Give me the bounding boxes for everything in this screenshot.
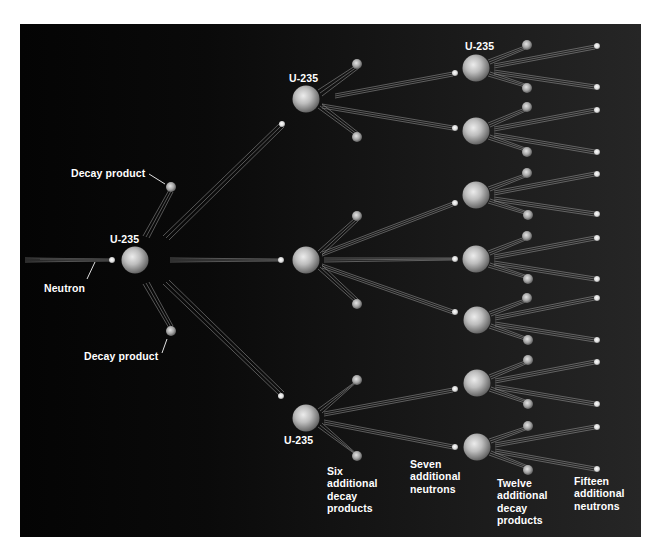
label-line: Six bbox=[327, 465, 378, 477]
u235-nuclei bbox=[122, 55, 491, 461]
nucleus-gen3-2 bbox=[463, 118, 490, 145]
label-line: additional bbox=[327, 477, 378, 489]
leader-neutron bbox=[87, 262, 95, 279]
label-line: Seven bbox=[410, 458, 461, 470]
label-line: decay bbox=[497, 502, 548, 514]
label-twelve-additional-decay-products: Twelve additional decay products bbox=[497, 477, 548, 526]
label-six-additional-decay-products: Six additional decay products bbox=[327, 465, 378, 514]
label-line: decay bbox=[327, 490, 378, 502]
label-line: neutrons bbox=[574, 500, 625, 512]
label-u235-gen2-bottom: U-235 bbox=[284, 434, 313, 446]
label-line: additional bbox=[410, 470, 461, 482]
label-line: Twelve bbox=[497, 477, 548, 489]
label-line: products bbox=[497, 514, 548, 526]
nucleus-gen2-middle bbox=[293, 247, 320, 274]
nucleus-gen3-5 bbox=[464, 307, 491, 334]
nucleus-gen3-1 bbox=[463, 55, 490, 82]
nucleus-gen2-bottom bbox=[293, 405, 320, 432]
gen2-middle-trails bbox=[318, 202, 453, 314]
nucleus-initial bbox=[122, 247, 149, 274]
gen1-trails bbox=[143, 123, 284, 396]
nucleus-gen3-6 bbox=[464, 370, 491, 397]
label-u235-initial: U-235 bbox=[110, 233, 139, 245]
label-neutron: Neutron bbox=[44, 282, 85, 294]
label-line: additional bbox=[497, 489, 548, 501]
incoming-neutron-trail bbox=[25, 258, 110, 262]
nucleus-gen3-4 bbox=[463, 246, 490, 273]
leader-decay-top bbox=[149, 174, 165, 184]
gen3-trails bbox=[488, 45, 595, 471]
label-u235-gen2-top: U-235 bbox=[289, 72, 318, 84]
leader-decay-bottom bbox=[162, 339, 167, 353]
label-u235-gen3-top: U-235 bbox=[465, 40, 494, 52]
nucleus-gen2-top bbox=[293, 86, 320, 113]
gen2-bottom-trails bbox=[318, 380, 453, 456]
label-decay-product-bottom: Decay product bbox=[84, 350, 158, 362]
nucleus-gen3-7 bbox=[464, 434, 491, 461]
label-line: products bbox=[327, 502, 378, 514]
label-seven-additional-neutrons: Seven additional neutrons bbox=[410, 458, 461, 495]
nucleus-gen3-3 bbox=[463, 182, 490, 209]
label-fifteen-additional-neutrons: Fifteen additional neutrons bbox=[574, 475, 625, 512]
label-line: neutrons bbox=[410, 483, 461, 495]
label-line: additional bbox=[574, 487, 625, 499]
label-line: Fifteen bbox=[574, 475, 625, 487]
gen2-top-trails bbox=[318, 66, 453, 135]
label-decay-product-top: Decay product bbox=[71, 167, 145, 179]
